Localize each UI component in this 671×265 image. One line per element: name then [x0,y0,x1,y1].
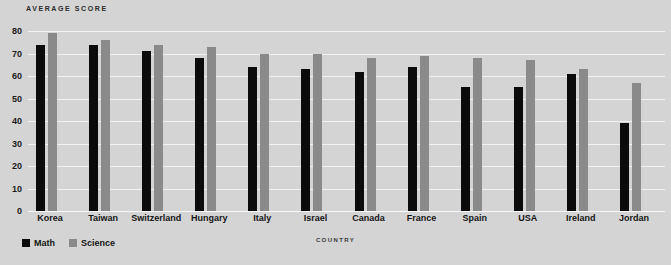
x-label-jordan: Jordan [619,213,649,223]
x-label-italy: Italy [253,213,271,223]
x-label-israel: Israel [304,213,328,223]
y-tick-label-20: 20 [12,161,22,171]
bar-science-usa [526,60,535,211]
x-label-ireland: Ireland [566,213,596,223]
bar-science-korea [48,33,57,211]
bar-group [81,31,134,211]
x-label-hungary: Hungary [191,213,228,223]
bar-science-ireland [579,69,588,211]
bar-math-jordan [620,123,629,211]
y-tick-label-10: 10 [12,184,22,194]
bar-science-jordan [632,83,641,211]
bar-math-switzerland [142,51,151,211]
legend-item-math[interactable]: Math [22,238,55,248]
bar-group [400,31,453,211]
bars-layer [28,31,665,211]
legend-label-math: Math [34,238,55,248]
bar-group [347,31,400,211]
bar-science-canada [367,58,376,211]
x-label-usa: USA [518,213,537,223]
x-label-canada: Canada [352,213,385,223]
bar-group [612,31,665,211]
legend-item-science[interactable]: Science [69,238,115,248]
bar-group [506,31,559,211]
bar-chart: AVERAGE SCORE 01020304050607080 KoreaTai… [0,0,671,265]
x-label-france: France [407,213,437,223]
legend-swatch-math [22,239,30,247]
x-label-switzerland: Switzerland [131,213,181,223]
bar-math-italy [248,67,257,211]
bar-science-israel [313,54,322,212]
bar-math-france [408,67,417,211]
bar-math-hungary [195,58,204,211]
y-tick-label-50: 50 [12,94,22,104]
bar-math-usa [514,87,523,211]
bar-group [28,31,81,211]
y-tick-label-40: 40 [12,116,22,126]
y-tick-label-30: 30 [12,139,22,149]
bar-science-taiwan [101,40,110,211]
bar-group [293,31,346,211]
bar-math-canada [355,72,364,212]
y-tick-label-60: 60 [12,71,22,81]
bar-math-spain [461,87,470,211]
bar-math-taiwan [89,45,98,212]
bar-math-korea [36,45,45,212]
bar-science-italy [260,54,269,212]
bar-group [187,31,240,211]
bar-science-hungary [207,47,216,211]
y-tick-label-70: 70 [12,49,22,59]
chart-title: AVERAGE SCORE [26,5,108,12]
bar-science-spain [473,58,482,211]
bar-math-ireland [567,74,576,211]
y-tick-label-0: 0 [17,206,22,216]
bar-group [453,31,506,211]
bar-science-france [420,56,429,211]
bar-science-switzerland [154,45,163,212]
chart-legend: MathScience [22,238,115,248]
gridline-0 [28,211,665,212]
x-axis-labels: KoreaTaiwanSwitzerlandHungaryItalyIsrael… [28,213,665,227]
bar-group [240,31,293,211]
bar-math-israel [301,69,310,211]
x-label-korea: Korea [37,213,63,223]
legend-label-science: Science [81,238,115,248]
y-axis: 01020304050607080 [0,31,26,211]
y-tick-label-80: 80 [12,26,22,36]
x-label-spain: Spain [462,213,487,223]
legend-swatch-science [69,239,77,247]
bar-group [559,31,612,211]
x-label-taiwan: Taiwan [88,213,118,223]
bar-group [134,31,187,211]
